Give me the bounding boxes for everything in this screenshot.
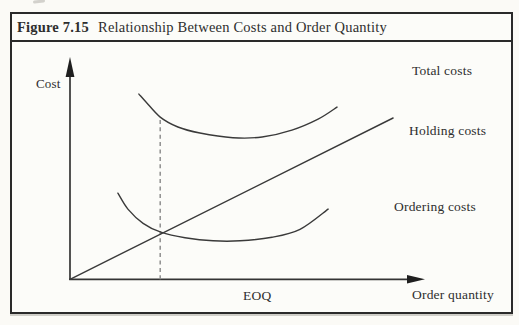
series-label-holding-costs: Holding costs [409, 124, 486, 138]
series-path-ordering-costs [118, 193, 328, 241]
y-axis-label: Cost [36, 77, 61, 90]
series-label-total-costs: Total costs [412, 64, 472, 78]
eoq-label: EOQ [243, 289, 271, 303]
series-path-total-costs [139, 94, 337, 138]
series-path-holding-costs [70, 118, 393, 279]
series-label-ordering-costs: Ordering costs [394, 200, 476, 214]
x-axis-arrow-icon [407, 275, 425, 284]
x-axis-label: Order quantity [412, 288, 494, 302]
chart-canvas [0, 0, 519, 325]
page-background: Figure 7.15 Relationship Between Costs a… [0, 0, 519, 325]
y-axis-arrow-icon [66, 57, 75, 77]
axes [66, 57, 425, 284]
cost-curves [70, 94, 393, 279]
